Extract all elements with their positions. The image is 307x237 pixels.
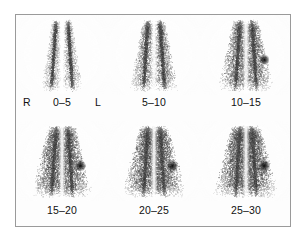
scintigram-canvas [16,15,108,95]
panel-caption-10-15: 10–15 [200,96,291,108]
panel-15-20[interactable]: 15–20 [16,121,108,226]
panel-caption-15-20: 15–20 [16,204,108,216]
orientation-marker-left: L [95,96,101,108]
scintigram-image-0-5 [16,15,108,95]
orientation-marker-right: R [23,96,31,108]
scintigram-image-5-10 [108,15,200,95]
panel-row-top: R 0–5 L 5–10 10–15 [16,15,290,121]
scintigram-canvas [108,121,200,201]
scintigram-canvas [108,15,200,95]
panel-label-15-20: 15–20 [47,204,77,216]
scintigram-canvas [200,121,291,201]
panel-label-5-10: 5–10 [142,96,166,108]
panel-5-10[interactable]: 5–10 [108,15,200,121]
panel-25-30[interactable]: 25–30 [200,121,291,226]
scintigram-image-10-15 [200,15,291,95]
panel-label-20-25: 20–25 [139,204,169,216]
panel-label-10-15: 10–15 [231,96,261,108]
panel-caption-25-30: 25–30 [200,204,291,216]
panel-caption-20-25: 20–25 [108,204,200,216]
panel-10-15[interactable]: 10–15 [200,15,291,121]
panel-0-5[interactable]: R 0–5 L [16,15,108,121]
panel-caption-5-10: 5–10 [108,96,200,108]
panel-20-25[interactable]: 20–25 [108,121,200,226]
scintigram-image-20-25 [108,121,200,201]
scintigram-image-15-20 [16,121,108,201]
panel-caption-0-5: R 0–5 L [16,96,108,108]
scintigram-canvas [16,121,108,201]
scintigram-image-25-30 [200,121,291,201]
panel-label-0-5: 0–5 [53,96,71,108]
panel-label-25-30: 25–30 [231,204,261,216]
figure-frame: R 0–5 L 5–10 10–15 [15,14,291,227]
panel-row-bottom: 15–20 20–25 25–30 [16,121,290,226]
scintigram-canvas [200,15,291,95]
